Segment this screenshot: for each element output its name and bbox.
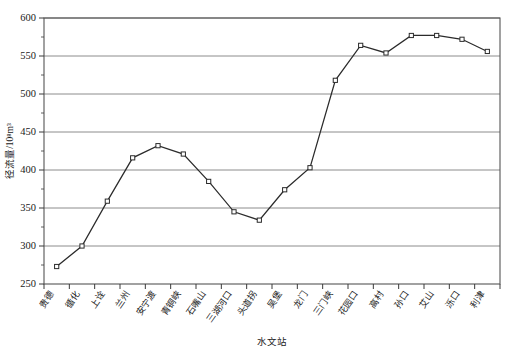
y-tick-label: 400 — [20, 164, 36, 175]
gridlines — [44, 18, 500, 246]
data-point-marker — [105, 199, 109, 203]
y-tick-label: 450 — [20, 126, 36, 137]
x-tick-label: 青铜峡 — [158, 289, 182, 317]
y-axis-title-group: 径流量/10⁸m³ — [4, 123, 15, 179]
data-point-marker — [460, 37, 464, 41]
data-point-marker — [55, 264, 59, 268]
y-tick-label: 300 — [20, 240, 36, 251]
x-tick-label: 兰州 — [113, 289, 132, 310]
data-point-marker — [485, 49, 489, 53]
data-point-marker — [80, 244, 84, 248]
x-tick-label: 泺口 — [442, 289, 461, 310]
runoff-series-line — [57, 35, 488, 266]
data-point-marker — [333, 78, 337, 82]
x-tick-label: 三湖河口 — [204, 289, 234, 325]
data-point-marker — [435, 33, 439, 37]
runoff-line-chart: 250300350400450500550600径流量/10⁸m³贵德循化上诠兰… — [0, 0, 510, 360]
x-tick-label: 安宁渡 — [133, 289, 157, 317]
chart-canvas: 250300350400450500550600径流量/10⁸m³贵德循化上诠兰… — [0, 0, 510, 360]
y-tick-label: 350 — [20, 202, 36, 213]
x-tick-label: 艾山 — [418, 289, 437, 309]
x-tick-label: 高村 — [366, 289, 385, 310]
data-point-marker — [257, 218, 261, 222]
x-tick-label: 循化 — [62, 289, 81, 310]
data-point-marker — [308, 166, 312, 170]
x-tick-label: 上诠 — [88, 289, 107, 310]
x-axis-title: 水文站 — [257, 336, 287, 347]
x-tick-label: 贵德 — [37, 289, 56, 310]
x-tick-label: 三门峡 — [310, 289, 334, 317]
y-axis: 250300350400450500550600 — [20, 12, 44, 289]
x-tick-label: 头道拐 — [234, 289, 258, 317]
x-tick-label: 孙口 — [392, 289, 411, 310]
data-point-marker — [131, 156, 135, 160]
x-axis: 贵德循化上诠兰州安宁渡青铜峡石嘴山三湖河口头道拐吴堡龙门三门峡花园口高村孙口艾山… — [37, 284, 500, 325]
x-tick-label: 花园口 — [336, 289, 360, 317]
y-tick-label: 250 — [20, 278, 36, 289]
data-point-marker — [156, 144, 160, 148]
x-tick-label: 石嘴山 — [185, 289, 209, 317]
x-tick-label: 龙门 — [290, 289, 309, 310]
data-point-marker — [359, 43, 363, 47]
plot-frame — [44, 18, 500, 284]
data-markers — [55, 33, 490, 268]
y-axis-title: 径流量/10⁸m³ — [4, 123, 15, 179]
data-point-marker — [283, 188, 287, 192]
data-point-marker — [409, 33, 413, 37]
data-point-marker — [207, 179, 211, 183]
data-point-marker — [384, 51, 388, 55]
x-tick-label: 利津 — [468, 289, 487, 310]
data-point-marker — [181, 152, 185, 156]
y-tick-label: 500 — [20, 88, 36, 99]
y-tick-label: 600 — [20, 12, 36, 23]
x-tick-label: 吴堡 — [265, 289, 284, 310]
plot-border — [44, 18, 500, 284]
y-tick-label: 550 — [20, 50, 36, 61]
data-point-marker — [232, 210, 236, 214]
